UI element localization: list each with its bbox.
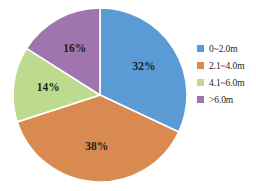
chart-legend: 0~2.0m2.1~4.0m4.1~6.0m>6.0m (197, 40, 255, 108)
legend-item-label: 0~2.0m (209, 44, 238, 54)
legend-item-label: >6.0m (209, 95, 233, 105)
pie-slice-label-2: 38% (85, 140, 108, 152)
pie-slice-group (13, 8, 187, 182)
legend-swatch-icon-3 (197, 79, 204, 86)
legend-item-1[interactable]: 0~2.0m (197, 40, 255, 57)
pie-chart-svg: 32%38%14%16% (12, 7, 188, 183)
legend-item-4[interactable]: >6.0m (197, 91, 255, 108)
pie-slice-label-3: 14% (37, 81, 60, 93)
pie-chart-figure: 32%38%14%16% 0~2.0m2.1~4.0m4.1~6.0m>6.0m (0, 0, 256, 191)
legend-swatch-icon-4 (197, 96, 204, 103)
legend-item-2[interactable]: 2.1~4.0m (197, 57, 255, 74)
pie-chart-plot-area: 32%38%14%16% (12, 7, 188, 183)
legend-item-label: 4.1~6.0m (209, 78, 244, 88)
pie-slice-label-4: 16% (63, 42, 86, 54)
pie-slice-label-1: 32% (133, 60, 156, 72)
legend-swatch-icon-1 (197, 45, 204, 52)
legend-item-3[interactable]: 4.1~6.0m (197, 74, 255, 91)
legend-item-label: 2.1~4.0m (209, 61, 244, 71)
legend-swatch-icon-2 (197, 62, 204, 69)
